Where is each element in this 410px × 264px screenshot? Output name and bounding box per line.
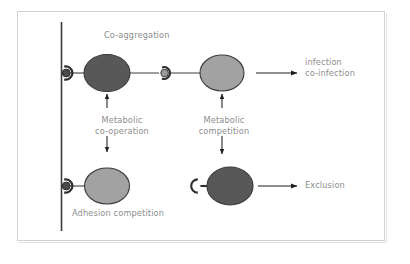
label-metabolic-cooperation-line1: Metabolic — [84, 115, 160, 126]
light-bacterium-bottom — [85, 168, 130, 204]
label-metabolic-cooperation-line2: co-operation — [84, 126, 160, 137]
label-metabolic-competition-line1: Metabolic — [186, 115, 262, 126]
label-adhesion-competition: Adhesion competition — [72, 208, 164, 219]
dark-bacterium-bottom — [207, 167, 253, 205]
receptor-knob-light-icon — [161, 69, 169, 77]
label-co-aggregation: Co-aggregation — [104, 30, 169, 41]
receptor-knob-icon-bottom — [62, 182, 70, 190]
label-metabolic-competition-line2: competition — [186, 126, 262, 137]
receptor-knob-icon — [62, 69, 70, 77]
label-exclusion: Exclusion — [305, 180, 345, 191]
receptor-adhesin-pair-top-middle — [161, 67, 170, 79]
label-co-infection: co-infection — [305, 68, 355, 79]
figure-root: Co-aggregation infection co-infection Me… — [0, 0, 410, 264]
light-bacterium-top — [200, 55, 244, 91]
label-infection: infection — [305, 57, 342, 68]
free-adhesin-icon — [191, 179, 208, 192]
dark-bacterium-top — [84, 55, 130, 92]
